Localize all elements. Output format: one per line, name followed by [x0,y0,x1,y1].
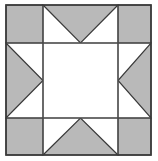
quilt-block-figure [0,0,158,161]
patch-corner-bottom-left [6,118,43,155]
patch-center-square [43,43,118,118]
patch-corner-top-right [118,5,151,43]
quilt-block-canvas [0,0,158,161]
patch-corner-bottom-right [118,118,151,155]
patch-corner-top-left [6,5,43,43]
